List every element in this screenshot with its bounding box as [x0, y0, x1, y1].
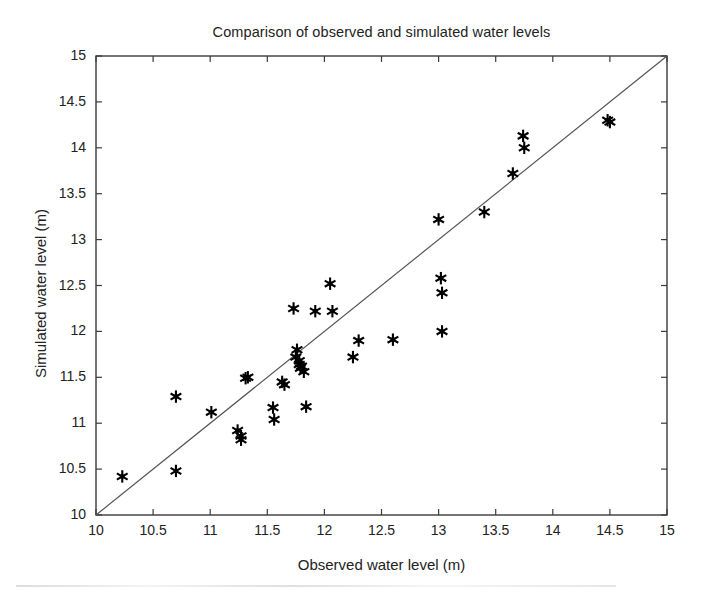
y-tick-label: 10.5: [28, 460, 86, 476]
y-tick-label: 14: [28, 139, 86, 155]
page-caption-smudge: [16, 585, 616, 587]
data-point: [479, 206, 490, 218]
data-point: [437, 325, 448, 337]
data-point: [171, 390, 182, 402]
x-tick-label: 15: [637, 522, 697, 538]
data-point: [433, 213, 444, 225]
y-tick-label: 11.5: [28, 368, 86, 384]
y-tick-label: 11: [28, 414, 86, 430]
x-tick-label: 12: [294, 522, 354, 538]
x-tick-label: 13.5: [466, 522, 526, 538]
data-point: [301, 400, 312, 412]
y-tick-label: 12.5: [28, 277, 86, 293]
y-tick-label: 12: [28, 322, 86, 338]
data-point: [268, 401, 279, 413]
x-tick-label: 10: [66, 522, 126, 538]
x-tick-label: 13: [409, 522, 469, 538]
data-point: [325, 277, 336, 289]
x-tick-label: 11: [180, 522, 240, 538]
data-point: [507, 167, 518, 179]
y-tick-label: 14.5: [28, 93, 86, 109]
data-point: [519, 142, 530, 154]
y-tick-label: 10: [28, 506, 86, 522]
data-point: [117, 470, 128, 482]
scatter-plot: [0, 0, 702, 592]
data-point: [171, 465, 182, 477]
data-point: [269, 413, 280, 425]
x-tick-label: 11.5: [237, 522, 297, 538]
x-tick-label: 12.5: [352, 522, 412, 538]
data-point: [353, 334, 364, 346]
data-point: [206, 406, 217, 418]
data-point: [288, 302, 299, 314]
data-point: [348, 351, 359, 363]
y-tick-label: 15: [28, 47, 86, 63]
y-tick-label: 13: [28, 231, 86, 247]
x-tick-label: 10.5: [123, 522, 183, 538]
y-tick-label: 13.5: [28, 185, 86, 201]
data-point: [310, 305, 321, 317]
data-point: [437, 287, 448, 299]
reference-line-1to1: [96, 56, 667, 515]
x-tick-label: 14: [523, 522, 583, 538]
data-point: [327, 305, 338, 317]
figure: Comparison of observed and simulated wat…: [0, 0, 702, 592]
data-point: [388, 333, 399, 345]
data-point: [518, 130, 529, 142]
x-tick-label: 14.5: [580, 522, 640, 538]
data-point: [436, 272, 447, 284]
